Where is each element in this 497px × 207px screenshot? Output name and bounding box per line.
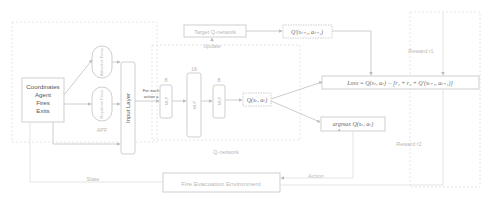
apf-oval-attractive: Attractive Force	[92, 46, 112, 78]
edge-input-to-attractive	[64, 60, 92, 95]
mlp-layer-2: 16 MLP	[187, 66, 201, 137]
mlp-layer-3-size: 8	[217, 77, 220, 83]
target-output-box: Q′(sₜ₊₁, aₜ₊₁)	[283, 25, 332, 38]
mlp-layer-2-size: 16	[191, 66, 197, 72]
edge-reward-r2	[280, 90, 443, 185]
edge-q-to-argmax	[271, 101, 320, 122]
environment-label: Fire Evacuation Environment	[181, 180, 261, 187]
diagram-canvas: Coordinates Agent Fires Exits Attractive…	[0, 0, 497, 207]
fire-evacuation-environment-box: Fire Evacuation Environment	[163, 173, 280, 192]
q-network-label: Q-network	[213, 149, 239, 155]
input-line-agent: Agent	[35, 91, 51, 98]
q-output-box: Q(sₜ, aₜ)	[243, 93, 271, 106]
loss-box: Loss = Q(sₜ, aₜ) − [r₁ + r₂ + Q′(sₜ₊₁, a…	[322, 76, 479, 89]
q-output-label: Q(sₜ, aₜ)	[247, 97, 268, 104]
target-q-network-box: Target Q-network	[184, 25, 246, 37]
edge-input-to-input-layer	[53, 122, 120, 144]
edge-target-output-to-loss	[332, 31, 371, 75]
argmax-label: argmax Q(sₜ, aₜ)	[333, 121, 373, 128]
q-network-region	[152, 45, 300, 140]
apf-oval-attractive-label: Attractive Force	[99, 47, 104, 76]
target-q-network-label: Target Q-network	[194, 29, 236, 35]
state-edge-label: State	[87, 176, 100, 182]
target-output-label: Q′(sₜ₊₁, aₜ₊₁)	[291, 29, 323, 36]
apf-oval-repulsive: Repulsive Force	[92, 87, 112, 121]
input-line-exits: Exits	[36, 107, 49, 114]
mlp-layer-1-size: 8	[164, 77, 167, 83]
input-layer: Input Layer	[121, 62, 135, 154]
input-line-fires: Fires	[36, 99, 50, 106]
input-line-coordinates: Coordinates	[26, 83, 59, 90]
edge-q-to-loss	[271, 82, 322, 99]
mlp-layer-1-label: MLP	[164, 97, 169, 106]
mlp-layer-1: 8 MLP	[160, 77, 172, 118]
mlp-layer-3-label: MLP	[217, 97, 222, 106]
input-state-box: Coordinates Agent Fires Exits	[22, 78, 64, 122]
edge-action	[281, 131, 353, 178]
for-each-line-1: For each	[143, 88, 160, 93]
apf-oval-repulsive-label: Repulsive Force	[99, 89, 104, 119]
input-layer-label: Input Layer	[125, 93, 131, 123]
reward-r1-label: Reward r1	[408, 48, 433, 54]
loss-equation: Loss = Q(sₜ, aₜ) − [r₁ + r₂ + Q′(sₜ₊₁, a…	[346, 80, 453, 87]
reward-r2-label: Reward r2	[396, 141, 421, 147]
update-label: Update	[203, 43, 221, 49]
apf-label: APF	[97, 127, 108, 133]
argmax-box: argmax Q(sₜ, aₜ) a	[321, 117, 385, 132]
argmax-subscript: a	[338, 128, 340, 132]
mlp-layer-3: 8 MLP	[213, 77, 225, 118]
reward-region	[410, 12, 480, 187]
mlp-layer-2-label: MLP	[192, 101, 197, 110]
for-each-line-2: action a	[144, 94, 159, 99]
